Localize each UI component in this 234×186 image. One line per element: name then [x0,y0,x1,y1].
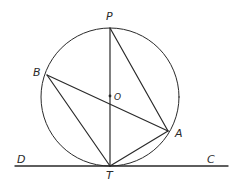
chord-pa [110,28,168,131]
label-p: P [106,10,113,23]
label-d: D [17,153,25,166]
chord-at [110,131,168,166]
label-a: A [174,127,183,140]
chord-bt [47,75,110,166]
label-c: C [207,153,215,166]
label-b: B [33,66,41,79]
chord-ba [47,75,168,131]
geometry-diagram: P B O A T D C [0,0,234,186]
label-t: T [106,169,114,182]
center-point-o [109,95,112,98]
label-o: O [114,92,121,102]
